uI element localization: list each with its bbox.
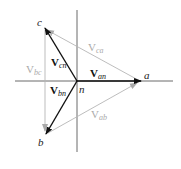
point-label-b: b xyxy=(38,136,44,148)
label-van: Van xyxy=(90,67,106,81)
label-vab: Vab xyxy=(91,108,107,122)
vector-vcn xyxy=(45,28,77,81)
label-vca: Vca xyxy=(88,41,104,55)
origin-label-n: n xyxy=(79,83,85,95)
label-vbn: Vbn xyxy=(50,84,66,98)
phasor-diagram: c a b n Vcn Van Vbn Vca Vbc Vab xyxy=(0,0,181,169)
point-label-c: c xyxy=(37,16,42,28)
label-vbc: Vbc xyxy=(26,63,42,77)
point-label-a: a xyxy=(144,69,150,81)
label-vcn: Vcn xyxy=(51,56,67,70)
